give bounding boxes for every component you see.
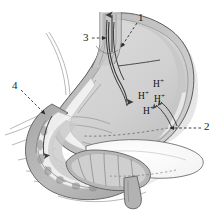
anatomy-figure: 1 2 3 4 H+ H+ H+ H+ <box>0 0 219 212</box>
ion-symbol-4: H <box>143 106 150 116</box>
ion-symbol-2: H <box>138 91 145 101</box>
ion-charge-4: + <box>150 104 154 112</box>
hydrogen-ion-label-4: H+ <box>143 105 154 117</box>
callout-label-2: 2 <box>204 121 210 132</box>
ion-symbol-1: H <box>153 79 160 89</box>
ion-symbol-3: H <box>154 94 161 104</box>
stomach-duodenum-illustration <box>0 0 219 212</box>
ion-charge-3: + <box>161 92 165 100</box>
callout-label-1: 1 <box>138 12 144 23</box>
hydrogen-ion-label-2: H+ <box>138 90 149 102</box>
hydrogen-ion-label-1: H+ <box>153 78 164 90</box>
callout-label-4: 4 <box>12 80 18 91</box>
callout-label-3: 3 <box>83 32 89 43</box>
leader-line-4 <box>21 90 45 114</box>
ion-charge-1: + <box>160 77 164 85</box>
ion-charge-2: + <box>145 89 149 97</box>
hydrogen-ion-label-3: H+ <box>154 93 165 105</box>
